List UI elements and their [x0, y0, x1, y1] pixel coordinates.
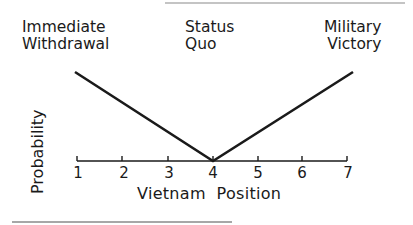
x-tick-label: 3: [164, 165, 174, 181]
x-tick-label: 1: [73, 165, 83, 181]
x-tick-label: 2: [119, 165, 129, 181]
x-tick-label: 7: [343, 165, 353, 181]
x-axis-label: Vietnam Position: [137, 184, 281, 203]
y-axis-label: Probability: [28, 109, 47, 194]
annotation-status-quo: Status Quo: [185, 19, 234, 53]
annotation-immediate-withdrawal: Immediate Withdrawal: [22, 19, 109, 53]
x-tick-label: 6: [297, 165, 307, 181]
x-tick-label: 5: [253, 165, 263, 181]
x-tick-label: 4: [208, 165, 218, 181]
annotation-military-victory: Military Victory: [324, 19, 381, 53]
probability-line: [75, 72, 353, 161]
